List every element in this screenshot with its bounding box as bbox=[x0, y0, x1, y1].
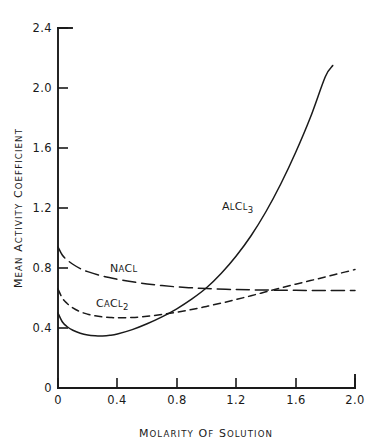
series-line-nacl bbox=[58, 247, 355, 291]
svg-text:MEAN ACTIVITY COEFFICIENT: MEAN ACTIVITY COEFFICIENT bbox=[12, 128, 25, 288]
series-label-nacl: NACL bbox=[110, 262, 138, 275]
y-axis-title: MEAN ACTIVITY COEFFICIENT bbox=[12, 128, 25, 288]
y-tick-label-0.8: 0.8 bbox=[33, 261, 53, 275]
x-tick-label-1.6: 1.6 bbox=[286, 393, 306, 407]
activity-coefficient-chart: 2.4 2.0 1.6 1.2 0.8 0.4 0 0 0.4 0.8 1.2 … bbox=[0, 0, 376, 445]
y-axis-ticks bbox=[58, 28, 68, 328]
x-tick-label-0.4: 0.4 bbox=[107, 393, 127, 407]
y-tick-label-1.2: 1.2 bbox=[33, 201, 53, 215]
x-tick-label-1.2: 1.2 bbox=[226, 393, 246, 407]
x-axis-ticks bbox=[58, 378, 355, 388]
series-label-cacl2: CACL2 bbox=[96, 297, 129, 312]
x-tick-label-2.0: 2.0 bbox=[345, 393, 365, 407]
series-line-cacl2 bbox=[58, 270, 355, 318]
x-tick-label-0: 0 bbox=[54, 393, 62, 407]
y-tick-label-1.6: 1.6 bbox=[33, 141, 53, 155]
chart-page: 2.4 2.0 1.6 1.2 0.8 0.4 0 0 0.4 0.8 1.2 … bbox=[0, 0, 376, 445]
y-axis-tick-labels: 2.4 2.0 1.6 1.2 0.8 0.4 0 bbox=[33, 21, 53, 395]
y-tick-label-0.4: 0.4 bbox=[33, 321, 53, 335]
x-axis-title: MOLARITY OF SOLUTION bbox=[139, 427, 273, 440]
y-tick-label-2.4: 2.4 bbox=[33, 21, 53, 35]
y-axis-title-text: MEAN ACTIVITY COEFFICIENT bbox=[12, 128, 25, 288]
series-line-alcl3 bbox=[58, 66, 333, 336]
x-axis-tick-labels: 0 0.4 0.8 1.2 1.6 2.0 bbox=[54, 393, 365, 407]
y-tick-label-2.0: 2.0 bbox=[33, 81, 53, 95]
series-group bbox=[58, 66, 355, 336]
series-label-alcl3: ALCL3 bbox=[222, 200, 253, 215]
x-tick-label-0.8: 0.8 bbox=[167, 393, 187, 407]
axis-frame bbox=[58, 28, 355, 388]
x-axis-title-text: MOLARITY OF SOLUTION bbox=[139, 427, 273, 440]
svg-text:MOLARITY OF SOLUTION: MOLARITY OF SOLUTION bbox=[139, 427, 273, 440]
series-annotations: ALCL3 NACL CACL2 bbox=[96, 200, 253, 312]
y-tick-label-0: 0 bbox=[44, 381, 52, 395]
